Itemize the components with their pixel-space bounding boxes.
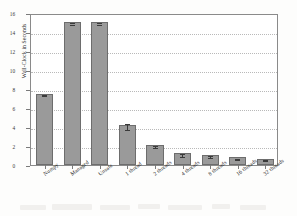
y-tick-mark [26,166,30,167]
bar [36,94,53,165]
scan-artifact [100,205,130,210]
scan-artifact [240,205,266,210]
y-tick-label: 12 [0,49,15,55]
error-bar-cap [42,96,47,97]
error-bar-cap [70,25,75,26]
scan-artifact [168,205,202,210]
error-bar-cap [70,23,75,24]
figure: Wall-Clock in Seconds 0246810121416Numpy… [0,0,297,216]
scan-artifact [52,204,92,210]
plot-area [30,14,278,166]
y-tick-label: 4 [0,125,15,131]
error-bar-cap [208,156,213,157]
scan-artifact [212,204,230,209]
y-tick-mark [26,52,30,53]
y-axis-label: Wall-Clock in Seconds [21,0,27,121]
y-tick-label: 0 [0,163,15,169]
y-tick-mark [26,14,30,15]
error-bar-cap [180,157,185,158]
y-tick-label: 16 [0,11,15,17]
y-tick-label: 2 [0,144,15,150]
error-bar-cap [97,25,102,26]
y-tick-mark [26,71,30,72]
error-bar-cap [153,146,158,147]
y-tick-label: 8 [0,87,15,93]
error-bar-cap [263,161,268,162]
y-tick-mark [26,90,30,91]
error-bar-cap [125,130,130,131]
bar [64,22,81,165]
error-bar-cap [97,23,102,24]
error-bar-cap [208,158,213,159]
error-bar-cap [125,124,130,125]
y-tick-mark [26,147,30,148]
y-tick-mark [26,109,30,110]
y-tick-mark [26,33,30,34]
error-bar-cap [235,160,240,161]
error-bar-cap [180,154,185,155]
scan-artifact [20,205,46,210]
bar [91,22,108,165]
scan-artifact [138,204,160,209]
error-bar-cap [153,148,158,149]
y-tick-mark [26,128,30,129]
y-tick-label: 14 [0,30,15,36]
y-tick-label: 10 [0,68,15,74]
y-tick-label: 6 [0,106,15,112]
